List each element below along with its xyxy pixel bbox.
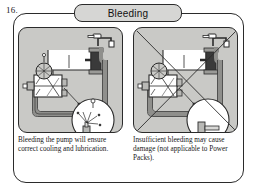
title-tab: Bleeding xyxy=(74,4,182,22)
figure-title: Bleeding xyxy=(108,8,149,19)
caption-correct: Bleeding the pump will ensure correct co… xyxy=(18,136,126,154)
figure-number: 16. xyxy=(6,5,18,15)
panel-incorrect xyxy=(133,27,238,133)
hydraulic-diagram-correct xyxy=(19,28,123,133)
figure-page: 16. Bleeding xyxy=(0,0,256,196)
panel-correct xyxy=(18,27,123,133)
caption-incorrect: Insufficient bleeding may cause damage (… xyxy=(133,136,241,164)
hydraulic-diagram-incorrect xyxy=(134,28,238,133)
